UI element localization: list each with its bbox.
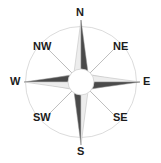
compass-label-east: E <box>143 76 150 87</box>
compass-center-hub <box>68 69 94 95</box>
compass-rose-figure: N NE E SE S SW W NW <box>0 0 161 163</box>
compass-label-south: S <box>77 146 84 157</box>
compass-rose-graphic <box>0 0 161 163</box>
compass-label-south-west: SW <box>33 112 51 123</box>
compass-label-north: N <box>76 7 84 18</box>
compass-label-south-east: SE <box>113 112 128 123</box>
compass-label-north-east: NE <box>113 41 128 52</box>
compass-label-west: W <box>10 76 20 87</box>
compass-label-north-west: NW <box>33 41 51 52</box>
